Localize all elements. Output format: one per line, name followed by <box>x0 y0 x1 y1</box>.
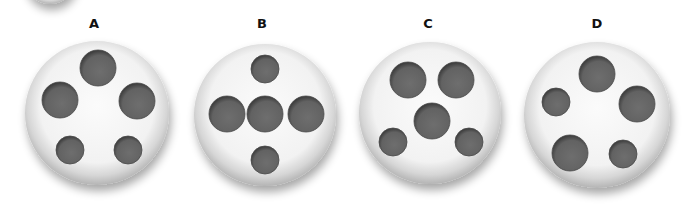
disc-option-a: A <box>25 16 169 185</box>
hole-upper-right-large <box>438 62 474 98</box>
option-label: D <box>592 16 603 31</box>
hole-lower-left-small <box>56 136 84 164</box>
hole-center-large <box>247 96 283 132</box>
hole-center-large <box>414 103 450 139</box>
hole-lower-left-large <box>552 135 588 171</box>
hole-lower-right-small <box>455 128 483 156</box>
hole-right-large <box>619 86 655 122</box>
hole-left-small <box>542 88 570 116</box>
disc-option-c: C <box>359 16 501 184</box>
hole-middle-right-large <box>288 96 324 132</box>
hole-upper-right-large <box>119 83 155 119</box>
hole-lower-right-small <box>609 140 637 168</box>
hole-top-small <box>251 55 279 83</box>
partial-disc-edge <box>24 0 76 4</box>
option-label: A <box>89 16 99 31</box>
option-label: B <box>257 16 267 31</box>
disc-option-b: B <box>194 16 336 186</box>
hole-top-large <box>579 56 615 92</box>
hole-bottom-small <box>251 146 279 174</box>
option-label: C <box>423 16 433 31</box>
hole-top-large <box>80 50 116 86</box>
hole-lower-left-small <box>379 128 407 156</box>
hole-upper-left-large <box>42 82 78 118</box>
hole-upper-left-large <box>390 62 426 98</box>
disc-option-d: D <box>524 16 670 188</box>
hole-middle-left-large <box>209 96 245 132</box>
hole-lower-right-small <box>114 136 142 164</box>
disc-options-figure: ABCD <box>0 0 690 207</box>
